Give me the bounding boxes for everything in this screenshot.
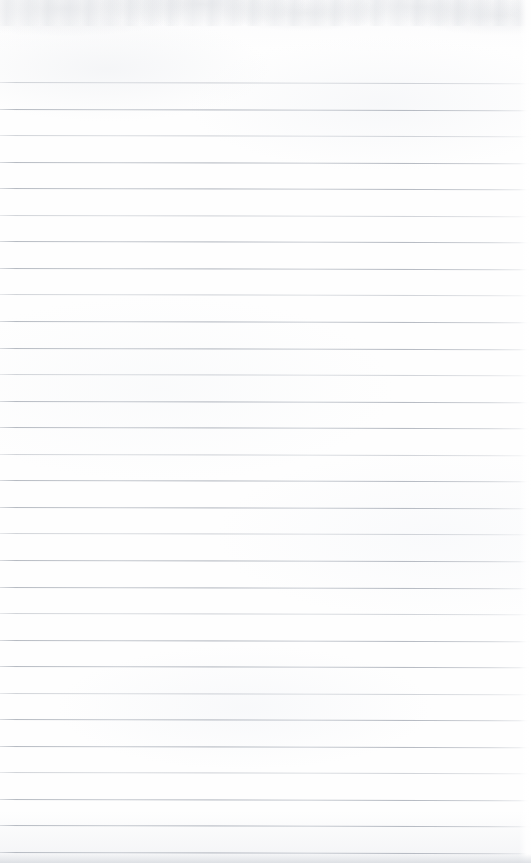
scanned-page <box>0 0 531 863</box>
page-content-area <box>0 0 531 863</box>
